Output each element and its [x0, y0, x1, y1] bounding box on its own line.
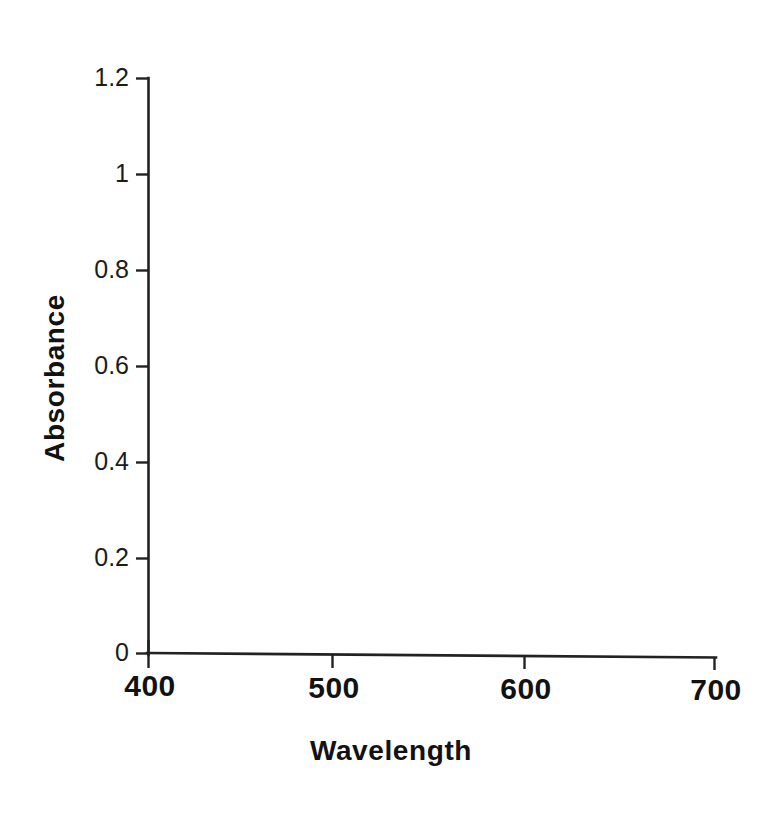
- x-tick-label-600: 600: [500, 672, 552, 705]
- y-tick-label-0.2: 0.2: [94, 543, 129, 571]
- absorbance-vs-wavelength-plot: 1.2 1 0.8 0.6 0.4 0.2 0 400 500 600 700 …: [0, 0, 782, 813]
- x-tick-label-500: 500: [308, 671, 360, 704]
- x-axis-title: Wavelength: [310, 735, 472, 766]
- plot-area: [148, 78, 715, 654]
- x-tick-label-400: 400: [124, 669, 176, 702]
- y-tick-label-1.2: 1.2: [94, 63, 129, 91]
- y-tick-label-0: 0: [115, 638, 129, 666]
- chart-figure: 1.2 1 0.8 0.6 0.4 0.2 0 400 500 600 700 …: [0, 0, 782, 813]
- y-tick-label-0.6: 0.6: [94, 351, 129, 379]
- y-tick-label-1: 1: [115, 159, 129, 187]
- y-tick-label-0.8: 0.8: [94, 255, 129, 283]
- x-tick-label-700: 700: [690, 673, 742, 706]
- y-axis-title: Absorbance: [39, 294, 70, 462]
- y-tick-label-0.4: 0.4: [94, 447, 129, 475]
